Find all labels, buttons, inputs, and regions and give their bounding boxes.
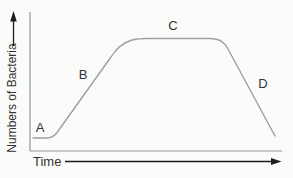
growth-curve-canvas: A B C D Numbers of Bacteria Time: [0, 0, 293, 178]
phase-label-d: D: [258, 76, 267, 91]
right-arrow-head: [271, 158, 282, 165]
growth-curve-line: [33, 39, 275, 139]
phase-label-c: C: [168, 18, 177, 33]
x-axis-right-arrow-icon: [65, 158, 282, 165]
y-axis-up-arrow-icon: [10, 11, 17, 46]
up-arrow-head: [10, 11, 17, 22]
bacterial-growth-curve-figure: A B C D Numbers of Bacteria Time: [0, 0, 293, 178]
y-axis-label: Numbers of Bacteria: [5, 43, 19, 153]
phase-label-b: B: [79, 67, 88, 82]
x-axis-label: Time: [33, 154, 61, 169]
phase-label-a: A: [36, 120, 45, 135]
